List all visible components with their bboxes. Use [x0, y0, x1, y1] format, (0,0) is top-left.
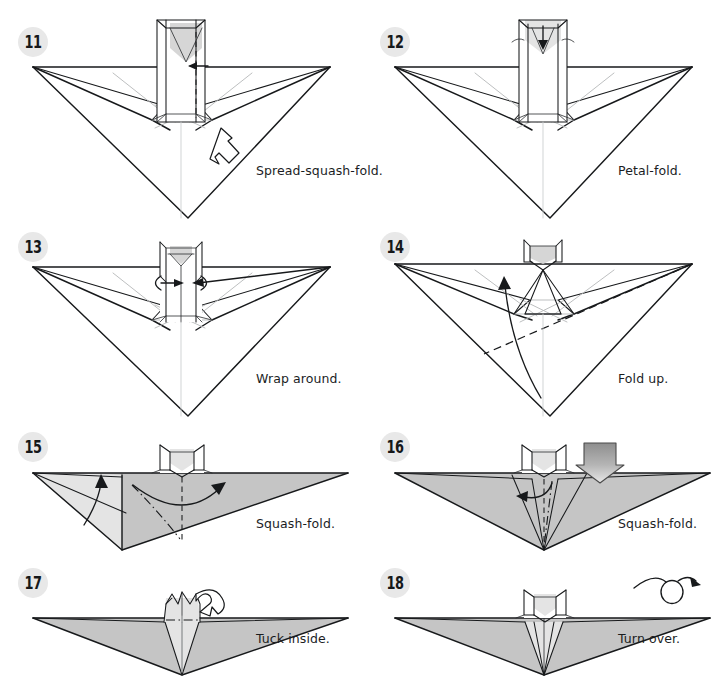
central-tube-15: [152, 445, 212, 477]
step-figure-11: [0, 10, 362, 225]
step-figure-12: [362, 10, 723, 225]
step-figure-16: [362, 425, 723, 550]
step-figure-18: [362, 560, 723, 680]
step-caption-15: Squash-fold.: [256, 516, 335, 531]
step-figure-14: [362, 228, 723, 418]
tuck-arrow-17: [196, 590, 224, 616]
diagram-sheet: 11: [0, 0, 723, 683]
step-caption-12: Petal-fold.: [618, 163, 682, 178]
central-tube-16: [514, 445, 574, 477]
step-caption-13: Wrap around.: [256, 371, 342, 386]
step-caption-17: Tuck inside.: [256, 631, 330, 646]
step-caption-14: Fold up.: [618, 371, 668, 386]
turn-over-loop-arrow-18: [634, 577, 701, 604]
paper-body-15: [33, 473, 348, 550]
step-figure-15: [0, 425, 362, 550]
central-tube-18: [516, 590, 574, 622]
central-tube-12: [514, 20, 574, 122]
step-caption-16: Squash-fold.: [618, 516, 697, 531]
step-figure-13: [0, 228, 362, 418]
step-figure-17: [0, 560, 362, 680]
paper-body-16: [395, 473, 710, 550]
paper-body-14: [395, 264, 692, 416]
step-caption-18: Turn over.: [618, 631, 680, 646]
central-tube-11: [152, 20, 212, 122]
